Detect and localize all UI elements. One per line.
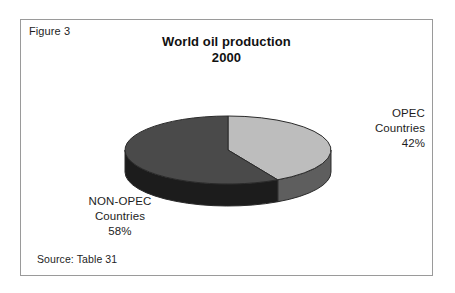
slice-label-non-opec-line2: Countries (59, 209, 181, 224)
slice-label-non-opec: NON-OPEC Countries 58% (59, 194, 181, 239)
slice-label-opec-line2: Countries (317, 121, 425, 136)
slice-label-opec-value: 42% (317, 136, 425, 151)
slice-label-non-opec-value: 58% (59, 224, 181, 239)
figure-frame: Figure 3 World oil production 2000 OPEC … (20, 19, 433, 276)
slice-label-opec-line1: OPEC (317, 106, 425, 121)
slice-label-non-opec-line1: NON-OPEC (59, 194, 181, 209)
slice-label-opec: OPEC Countries 42% (317, 106, 425, 151)
source-note: Source: Table 31 (37, 253, 117, 265)
pie-chart: OPEC Countries 42% NON-OPEC Countries 58… (21, 20, 432, 275)
